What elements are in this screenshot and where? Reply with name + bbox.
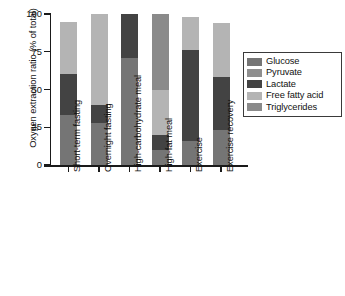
y-axis-title: Oxygen extraction ratio (% of total) [28, 0, 38, 163]
legend-swatch-icon [247, 103, 262, 111]
y-axis-tick-label: 75 [2, 47, 42, 56]
legend-swatch-icon [247, 69, 262, 77]
bar-segment[interactable] [213, 23, 230, 77]
bar-segment[interactable] [60, 22, 77, 75]
bar-segment[interactable] [152, 14, 169, 90]
chart-legend: GlucosePyruvateLactateFree fatty acidTri… [243, 52, 342, 117]
legend-item-label: Lactate [266, 80, 296, 89]
x-axis-category-label: High-fat meal [164, 118, 174, 172]
x-axis-tick [68, 166, 69, 172]
y-axis-tick-label: 25 [2, 122, 42, 131]
y-axis-tick-label: 0 [2, 160, 42, 169]
legend-item[interactable]: Free fatty acid [247, 90, 337, 101]
legend-item[interactable]: Pyruvate [247, 67, 337, 78]
legend-swatch-icon [247, 58, 262, 66]
x-axis-tick [220, 166, 221, 172]
x-axis-category-label: High-carbohydrate meal [133, 75, 143, 172]
y-axis-tick-label: 100 [2, 9, 42, 18]
legend-item[interactable]: Lactate [247, 79, 337, 90]
legend-item[interactable]: Triglycerides [247, 102, 337, 113]
legend-item-label: Free fatty acid [266, 91, 323, 100]
legend-item-label: Pyruvate [266, 68, 302, 77]
x-axis-tick [190, 166, 191, 172]
bar-segment[interactable] [182, 17, 199, 50]
bar-segment[interactable] [182, 50, 199, 141]
y-axis-tick-label: 50 [2, 85, 42, 94]
legend-swatch-icon [247, 92, 262, 100]
x-axis-category-label: Short-term fasting [72, 100, 82, 172]
bar-segment[interactable] [91, 14, 108, 105]
x-axis-category-label: Overnight fasting [103, 103, 113, 172]
legend-item-label: Triglycerides [266, 103, 317, 112]
x-axis-tick [129, 166, 130, 172]
legend-item[interactable]: Glucose [247, 56, 337, 67]
x-axis-category-label: Exercise [194, 137, 204, 172]
bar-segment[interactable] [121, 14, 138, 58]
x-axis-tick [98, 166, 99, 172]
x-axis-category-label: Exercise recovery [225, 100, 235, 172]
legend-item-label: Glucose [266, 57, 299, 66]
legend-swatch-icon [247, 80, 262, 88]
stacked-bar-chart-figure: Oxygen extraction ratio (% of total) 025… [0, 0, 345, 296]
x-axis-tick [159, 166, 160, 172]
